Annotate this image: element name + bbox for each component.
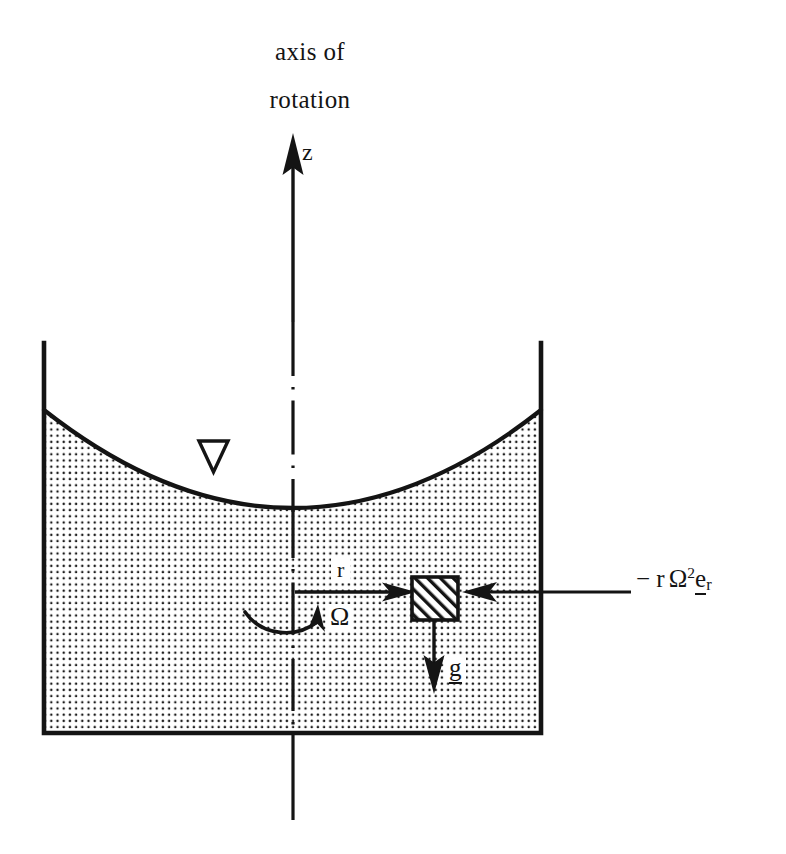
centrifugal-force-prefix: − r [636,565,665,592]
centrifugal-force-label: − rΩ2er [636,565,712,594]
gravity-label: g [445,655,466,681]
z-axis-label: z [302,140,313,164]
angular-velocity-label: Ω [327,604,352,630]
centrifugal-force-omega: Ω [669,565,688,592]
radius-label: r [331,558,350,583]
gravity-label-text: g [449,654,462,684]
centrifugal-force-unit-vector: e [695,565,706,595]
diagram-artwork [0,0,786,854]
centrifugal-force-exponent: 2 [687,564,695,581]
free-surface-level-marker-icon [199,441,228,472]
fluid-particle [412,577,458,620]
rotating-fluid-diagram: axis of rotation [0,0,786,854]
centrifugal-force-unit-subscript: r [706,575,712,594]
